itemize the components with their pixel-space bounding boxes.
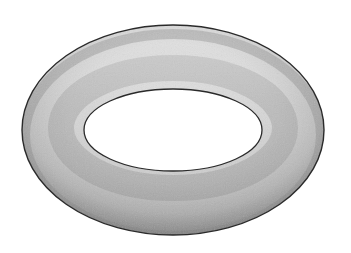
image-canvas: torus (0, 0, 351, 253)
torus-hole (84, 89, 262, 171)
torus-figure (0, 0, 351, 253)
